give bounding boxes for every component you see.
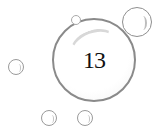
bubble-decoration-left	[8, 59, 24, 75]
bubble-shine-icon	[16, 64, 21, 72]
bubble-shine-icon	[49, 115, 54, 123]
bubble-decoration-small-top	[71, 15, 81, 25]
bubble-number: 13	[54, 20, 134, 100]
bubble-decoration-bottom-right	[77, 110, 93, 126]
number-bubble: 13	[52, 18, 136, 102]
bubble-shine-icon	[85, 115, 90, 123]
bubble-shine-icon	[139, 16, 147, 30]
bubble-decoration-bottom-left	[41, 110, 57, 126]
